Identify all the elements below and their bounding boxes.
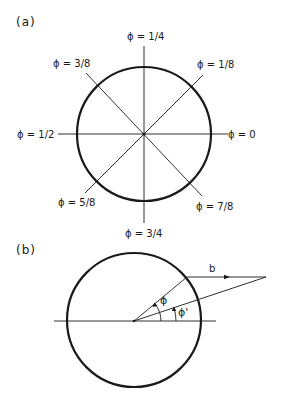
vector-b-label: b	[209, 263, 215, 274]
label-phi-0: ϕ = 0	[228, 129, 256, 140]
panel-b-label: (b)	[16, 243, 36, 257]
label-phi-7-8: ϕ = 7/8	[196, 201, 233, 212]
vector-b-arrowhead-icon	[224, 275, 230, 279]
angle-label-phi-prime: ϕ'	[178, 306, 188, 319]
label-phi-5-8: ϕ = 5/8	[58, 197, 95, 208]
label-phi-3-8: ϕ = 3/8	[53, 58, 90, 69]
panel-b: (b) b ϕ ϕ'	[16, 243, 266, 387]
panel-a-label: (a)	[16, 15, 36, 29]
label-phi-3-4: ϕ = 3/4	[125, 228, 162, 239]
center-point-b	[133, 320, 135, 322]
label-phi-1-2: ϕ = 1/2	[17, 129, 54, 140]
label-phi-1-4: ϕ = 1/4	[127, 31, 164, 42]
panel-a: (a) ϕ = 0 ϕ = 1/8 ϕ = 1/4 ϕ = 3/8 ϕ = 1/…	[16, 15, 256, 239]
center-point-a	[142, 132, 145, 135]
angle-label-phi: ϕ	[160, 294, 167, 307]
label-phi-1-8: ϕ = 1/8	[197, 59, 234, 70]
phase-diagram-figure: (a) ϕ = 0 ϕ = 1/8 ϕ = 1/4 ϕ = 3/8 ϕ = 1/…	[0, 0, 283, 404]
